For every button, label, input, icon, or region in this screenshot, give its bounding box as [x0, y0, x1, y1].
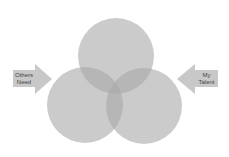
right-arrow-label: My Talent [195, 72, 218, 86]
left-arrow-line1: Others [13, 72, 35, 79]
left-arrow-line2: Need [13, 79, 35, 86]
left-arrow-label: Others Need [13, 72, 35, 86]
right-arrow-line1: My [195, 72, 218, 79]
right-arrow-line2: Talent [195, 79, 218, 86]
right-circle [106, 68, 182, 144]
venn-circles [47, 18, 182, 144]
